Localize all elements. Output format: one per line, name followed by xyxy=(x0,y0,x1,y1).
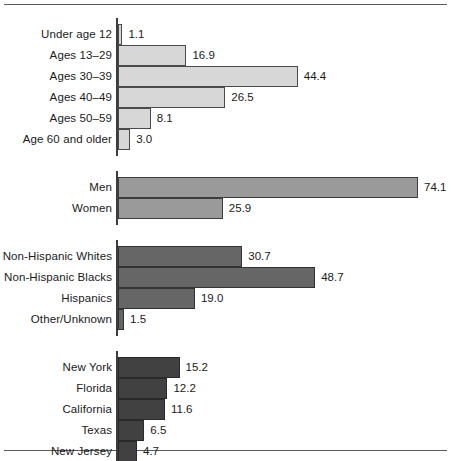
bar xyxy=(118,357,180,378)
value-label: 11.6 xyxy=(171,399,193,420)
top-rule xyxy=(4,4,447,5)
value-label: 12.2 xyxy=(173,378,195,399)
bar xyxy=(118,129,130,150)
category-label: Ages 13–29 xyxy=(0,45,112,66)
bar-group-sex: Men74.1Women25.9 xyxy=(0,171,451,225)
bar-row: Age 60 and older3.0 xyxy=(0,129,451,150)
bar-row: Non-Hispanic Whites30.7 xyxy=(0,246,451,267)
bar xyxy=(118,378,167,399)
bar-row: California11.6 xyxy=(0,399,451,420)
category-label: New York xyxy=(0,357,112,378)
category-label: Florida xyxy=(0,378,112,399)
bar-row: Under age 121.1 xyxy=(0,24,451,45)
category-label: Non-Hispanic Whites xyxy=(0,246,112,267)
bar-row: Hispanics19.0 xyxy=(0,288,451,309)
bar-row: New Jersey4.7 xyxy=(0,441,451,461)
bar-row: Ages 50–598.1 xyxy=(0,108,451,129)
value-label: 6.5 xyxy=(150,420,166,441)
bar xyxy=(118,177,418,198)
bar-row: Other/Unknown1.5 xyxy=(0,309,451,330)
bar-chart-figure: Under age 121.1Ages 13–2916.9Ages 30–394… xyxy=(0,0,451,461)
value-label: 30.7 xyxy=(248,246,270,267)
value-label: 19.0 xyxy=(201,288,223,309)
bar-row: Florida12.2 xyxy=(0,378,451,399)
bar-row: Ages 30–3944.4 xyxy=(0,66,451,87)
bar-row: Men74.1 xyxy=(0,177,451,198)
category-label: Ages 50–59 xyxy=(0,108,112,129)
bar xyxy=(118,108,151,129)
bar xyxy=(118,420,144,441)
bar-row: New York15.2 xyxy=(0,357,451,378)
value-label: 26.5 xyxy=(231,87,253,108)
bar-row: Women25.9 xyxy=(0,198,451,219)
bar-group-race-ethnicity: Non-Hispanic Whites30.7Non-Hispanic Blac… xyxy=(0,240,451,336)
category-label: Texas xyxy=(0,420,112,441)
value-label: 1.1 xyxy=(128,24,144,45)
category-label: Men xyxy=(0,177,112,198)
category-label: Ages 30–39 xyxy=(0,66,112,87)
category-label: Under age 12 xyxy=(0,24,112,45)
value-label: 16.9 xyxy=(192,45,214,66)
value-label: 1.5 xyxy=(130,309,146,330)
category-label: Women xyxy=(0,198,112,219)
bar xyxy=(118,288,195,309)
value-label: 4.7 xyxy=(143,441,159,461)
value-label: 25.9 xyxy=(229,198,251,219)
value-label: 8.1 xyxy=(157,108,173,129)
bar xyxy=(118,441,137,461)
bar xyxy=(118,66,298,87)
value-label: 44.4 xyxy=(304,66,326,87)
category-label: New Jersey xyxy=(0,441,112,461)
bar-group-age: Under age 121.1Ages 13–2916.9Ages 30–394… xyxy=(0,18,451,156)
category-label: Hispanics xyxy=(0,288,112,309)
bar-row: Non-Hispanic Blacks48.7 xyxy=(0,267,451,288)
bar xyxy=(118,267,315,288)
bar xyxy=(118,198,223,219)
bar-row: Ages 13–2916.9 xyxy=(0,45,451,66)
category-label: Other/Unknown xyxy=(0,309,112,330)
bar xyxy=(118,45,186,66)
category-label: Ages 40–49 xyxy=(0,87,112,108)
bar-group-state: New York15.2Florida12.2California11.6Tex… xyxy=(0,351,451,461)
bar xyxy=(118,309,124,330)
bar xyxy=(118,399,165,420)
bar xyxy=(118,246,242,267)
category-label: California xyxy=(0,399,112,420)
value-label: 3.0 xyxy=(136,129,152,150)
category-label: Non-Hispanic Blacks xyxy=(0,267,112,288)
value-label: 48.7 xyxy=(321,267,343,288)
bar-row: Ages 40–4926.5 xyxy=(0,87,451,108)
value-label: 74.1 xyxy=(424,177,446,198)
value-label: 15.2 xyxy=(186,357,208,378)
category-label: Age 60 and older xyxy=(0,129,112,150)
bar xyxy=(118,24,122,45)
bar xyxy=(118,87,225,108)
bar-row: Texas6.5 xyxy=(0,420,451,441)
